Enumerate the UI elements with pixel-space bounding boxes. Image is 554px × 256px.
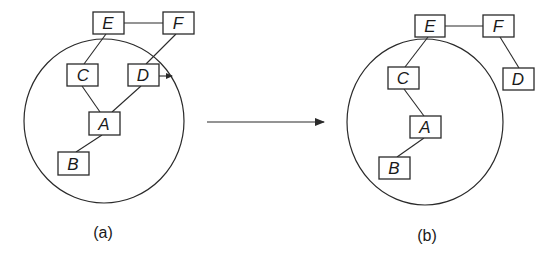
node-f: F: [483, 15, 514, 37]
svg-text:E: E: [424, 17, 436, 36]
svg-text:A: A: [97, 115, 109, 134]
edge-f-d: [146, 34, 176, 64]
node-d: D: [128, 64, 159, 86]
edge-e-c: [405, 37, 428, 67]
node-a: A: [89, 112, 120, 135]
diagram-canvas: E F C D A B (a): [0, 0, 554, 256]
svg-text:D: D: [512, 70, 524, 89]
node-a: A: [410, 116, 441, 138]
node-d: D: [503, 68, 534, 90]
node-b: B: [379, 157, 410, 179]
edge-c-a: [404, 89, 424, 116]
node-c: C: [67, 64, 98, 86]
node-c: C: [388, 67, 419, 89]
edge-f-d: [500, 37, 519, 68]
panel-a: E F C D A B (a): [24, 12, 194, 241]
caption-b: (b): [417, 227, 437, 244]
caption-a: (a): [93, 224, 113, 241]
svg-text:E: E: [102, 14, 114, 33]
svg-text:A: A: [418, 118, 430, 137]
edge-a-b: [397, 138, 424, 157]
svg-text:F: F: [173, 14, 185, 33]
edge-d-a: [112, 86, 141, 112]
svg-text:B: B: [388, 159, 399, 178]
node-e: E: [93, 12, 124, 34]
svg-text:C: C: [77, 66, 90, 85]
panel-b: E F C D A B (b): [347, 15, 534, 244]
svg-text:F: F: [493, 17, 505, 36]
node-b: B: [58, 152, 89, 175]
svg-text:B: B: [67, 155, 78, 174]
svg-text:D: D: [137, 66, 149, 85]
edge-e-c: [84, 34, 106, 64]
edge-c-a: [82, 86, 100, 112]
node-e: E: [415, 15, 445, 37]
node-f: F: [163, 12, 194, 34]
edge-a-b: [76, 135, 102, 152]
svg-text:C: C: [397, 69, 410, 88]
